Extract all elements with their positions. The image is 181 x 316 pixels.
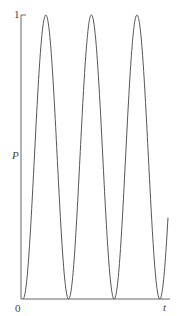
probability-curve [23, 15, 168, 299]
x-axis-label: t [163, 302, 166, 313]
chart-plot [0, 0, 181, 316]
y-tick-label-1: 1 [14, 9, 20, 20]
x-origin-label: 0 [15, 303, 21, 314]
y-axis-label: P [12, 150, 19, 161]
